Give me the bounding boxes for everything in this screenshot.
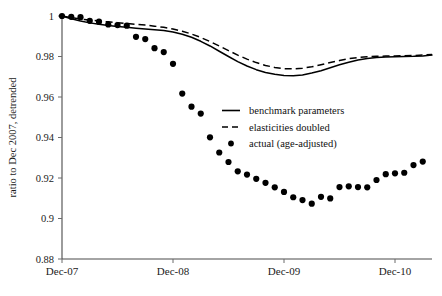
data-point — [170, 61, 176, 67]
y-tick-group: 10.980.960.940.920.90.88 — [36, 11, 62, 265]
data-point — [309, 201, 315, 207]
data-point — [420, 158, 426, 164]
data-point — [96, 19, 102, 25]
data-point — [114, 22, 120, 28]
legend-item-label: actual (age-adjusted) — [249, 138, 337, 150]
y-tick-label: 0.9 — [41, 213, 54, 224]
x-tick-label: Dec-10 — [379, 265, 412, 277]
data-point — [383, 171, 389, 177]
data-point — [290, 194, 296, 200]
data-point — [299, 197, 305, 203]
data-point — [87, 18, 93, 24]
data-point — [207, 134, 213, 140]
y-tick-label: 0.94 — [36, 132, 55, 143]
data-point — [327, 195, 333, 201]
data-point — [244, 171, 250, 177]
chart-figure: 10.980.960.940.920.90.88 ratio to Dec 20… — [0, 0, 442, 296]
data-point — [68, 14, 74, 20]
data-point — [161, 49, 167, 55]
data-point — [133, 34, 139, 40]
data-point — [392, 170, 398, 176]
y-axis-group: 10.980.960.940.920.90.88 ratio to Dec 20… — [7, 11, 62, 265]
y-tick-label: 0.92 — [36, 173, 54, 184]
data-point — [281, 189, 287, 195]
x-tick-group: Dec-07Dec-08Dec-09Dec-10 — [46, 259, 412, 277]
data-point — [179, 90, 185, 96]
data-point — [373, 177, 379, 183]
data-point — [105, 21, 111, 27]
data-point — [318, 194, 324, 200]
y-tick-label: 0.96 — [36, 92, 54, 103]
y-axis-title: ratio to Dec 2007, detrended — [7, 77, 18, 198]
legend-item-label: benchmark parameters — [249, 105, 344, 116]
legend-marker-dot — [228, 141, 234, 147]
data-point — [253, 176, 259, 182]
x-tick-label: Dec-07 — [46, 265, 79, 277]
y-tick-label: 1 — [49, 11, 54, 22]
data-point — [336, 184, 342, 190]
chart-canvas: 10.980.960.940.920.90.88 ratio to Dec 20… — [0, 0, 442, 296]
y-tick-label: 0.88 — [36, 254, 54, 265]
data-point — [225, 159, 231, 165]
data-point — [410, 162, 416, 168]
data-point — [198, 111, 204, 117]
data-point — [262, 180, 268, 186]
data-point — [235, 168, 241, 174]
data-point — [355, 184, 361, 190]
data-point — [188, 104, 194, 110]
series-layer — [59, 13, 432, 207]
x-tick-label: Dec-09 — [268, 265, 301, 277]
chart-legend: benchmark parameterselasticities doubled… — [222, 105, 344, 150]
data-point — [151, 45, 157, 51]
series-actual-dots — [59, 13, 426, 207]
data-point — [77, 14, 83, 20]
data-point — [124, 23, 130, 29]
data-point — [142, 36, 148, 42]
data-point — [346, 183, 352, 189]
data-point — [364, 184, 370, 190]
y-tick-label: 0.98 — [36, 51, 54, 62]
legend-item-label: elasticities doubled — [249, 122, 331, 133]
x-axis-group: Dec-07Dec-08Dec-09Dec-10 — [46, 259, 432, 277]
x-tick-label: Dec-08 — [157, 265, 190, 277]
data-point — [401, 170, 407, 176]
data-point — [272, 184, 278, 190]
data-point — [216, 149, 222, 155]
data-point — [59, 13, 65, 19]
